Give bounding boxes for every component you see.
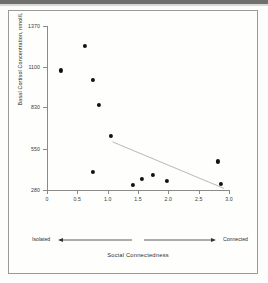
axis-arrow-right-label: Connected — [223, 236, 248, 242]
x-tick-label: 1.0 — [104, 196, 112, 202]
x-tick-label: 2.5 — [195, 196, 203, 202]
axis-arrow-left-label: Isolated — [32, 236, 50, 242]
x-tick — [229, 190, 230, 194]
x-tick — [199, 190, 200, 194]
x-tick — [168, 190, 169, 194]
y-tick — [43, 67, 47, 68]
x-tick-label: 1.5 — [134, 196, 142, 202]
x-tick-label: 3.0 — [225, 196, 233, 202]
y-tick — [43, 107, 47, 108]
y-axis-title: Basal Cortisol Concentration, nmol/L — [17, 0, 23, 149]
y-tick — [43, 149, 47, 150]
figure-container: 28055083011001370 00.51.01.52.02.53.0 Ba… — [0, 0, 268, 283]
x-tick-label: 0 — [46, 196, 49, 202]
x-tick — [108, 190, 109, 194]
arrow-graphic — [28, 234, 248, 246]
y-tick — [43, 26, 47, 27]
y-axis-line — [47, 26, 48, 190]
x-tick-label: 2.0 — [165, 196, 173, 202]
connectedness-arrow-row: Isolated Connected — [28, 234, 248, 246]
x-tick — [138, 190, 139, 194]
x-tick-label: 0.5 — [74, 196, 82, 202]
y-tick-label: 280 — [18, 187, 40, 193]
x-tick — [47, 190, 48, 194]
x-axis-title: Social Connectedness — [47, 252, 229, 258]
x-tick — [77, 190, 78, 194]
scan-band-top-light — [0, 4, 268, 6]
